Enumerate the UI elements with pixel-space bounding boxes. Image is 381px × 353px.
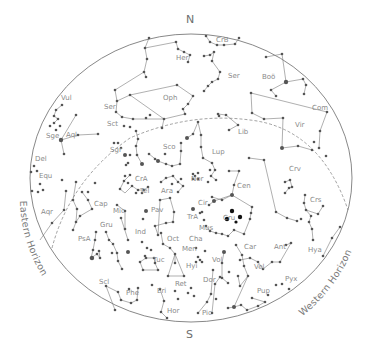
- star: [291, 186, 294, 189]
- star: [284, 80, 288, 84]
- star: [241, 254, 244, 257]
- star: [211, 60, 214, 63]
- star: [239, 285, 242, 288]
- constellation-label-ser: Ser: [104, 103, 116, 111]
- star: [72, 229, 75, 232]
- constellation-label-men: Men: [182, 245, 197, 253]
- star: [275, 211, 278, 214]
- star: [221, 233, 224, 236]
- star: [233, 184, 236, 187]
- star: [249, 218, 252, 221]
- star: [123, 153, 127, 157]
- star: [126, 250, 130, 254]
- star: [135, 130, 138, 133]
- constellation-label-hor: Hor: [167, 307, 180, 315]
- star: [251, 206, 254, 209]
- constellation-label-com: Com: [312, 104, 328, 112]
- star: [75, 221, 78, 224]
- star: [227, 307, 230, 310]
- star: [61, 179, 64, 182]
- star: [160, 311, 163, 314]
- star: [279, 261, 282, 264]
- star: [230, 193, 234, 197]
- star: [87, 191, 90, 194]
- star: [163, 118, 166, 121]
- constellation-label-sgr: Sgr: [110, 146, 122, 154]
- star: [203, 219, 206, 222]
- constellation-label-sct: Sct: [107, 120, 118, 128]
- constellation-label-gru: Gru: [100, 221, 113, 229]
- star: [108, 239, 111, 242]
- star: [281, 283, 284, 286]
- star: [97, 133, 100, 136]
- star: [211, 196, 214, 199]
- star: [270, 89, 273, 92]
- star: [303, 93, 306, 96]
- star: [215, 232, 218, 235]
- star: [207, 85, 210, 88]
- star: [59, 125, 62, 128]
- star: [92, 249, 95, 252]
- south-label: S: [186, 328, 193, 341]
- star: [146, 247, 149, 250]
- star: [127, 162, 130, 165]
- star: [156, 159, 160, 163]
- constellation-label-mus: Mus: [199, 224, 213, 232]
- star: [31, 190, 34, 193]
- star: [183, 275, 186, 278]
- star: [116, 204, 119, 207]
- star: [124, 175, 127, 178]
- star: [116, 252, 119, 255]
- star: [115, 111, 118, 114]
- star: [275, 95, 278, 98]
- star: [30, 171, 33, 174]
- star: [243, 265, 246, 268]
- star: [132, 118, 135, 121]
- constellation-label-cir: Cir: [198, 199, 208, 207]
- constellation-label-oph: Oph: [163, 94, 177, 102]
- star: [162, 243, 165, 246]
- constellation-label-psa: PsA: [78, 235, 91, 243]
- constellation-label-tra: TrA: [186, 213, 198, 221]
- star: [91, 208, 94, 211]
- star: [221, 199, 224, 202]
- star: [172, 221, 175, 224]
- star: [282, 117, 285, 120]
- constellation-label-crv: Crv: [289, 165, 301, 173]
- star: [290, 242, 293, 245]
- star: [53, 115, 56, 118]
- constellation-label-hya: Hya: [308, 246, 322, 254]
- star: [228, 271, 231, 274]
- star: [174, 290, 177, 293]
- star: [180, 142, 183, 145]
- star: [75, 114, 78, 117]
- star: [37, 191, 40, 194]
- star: [146, 58, 149, 61]
- star: [55, 109, 58, 112]
- star: [176, 84, 179, 87]
- star: [322, 255, 325, 258]
- star: [94, 239, 97, 242]
- star: [169, 247, 172, 250]
- star: [141, 241, 144, 244]
- star: [117, 260, 120, 263]
- star: [289, 179, 292, 182]
- star: [202, 157, 205, 160]
- star: [275, 284, 278, 287]
- star: [212, 199, 216, 203]
- star: [150, 249, 153, 252]
- star: [123, 180, 126, 183]
- constellation-label-lup: Lup: [212, 148, 225, 156]
- star: [179, 163, 182, 166]
- star: [239, 259, 242, 262]
- star: [248, 157, 251, 160]
- star: [296, 220, 299, 223]
- star: [114, 309, 117, 312]
- star: [200, 134, 203, 137]
- constellation-label-mic: Mic: [113, 207, 125, 215]
- star: [264, 301, 267, 304]
- constellation-label-cru: Cru: [223, 214, 235, 222]
- star: [136, 299, 139, 302]
- star: [174, 262, 177, 265]
- star: [218, 115, 221, 118]
